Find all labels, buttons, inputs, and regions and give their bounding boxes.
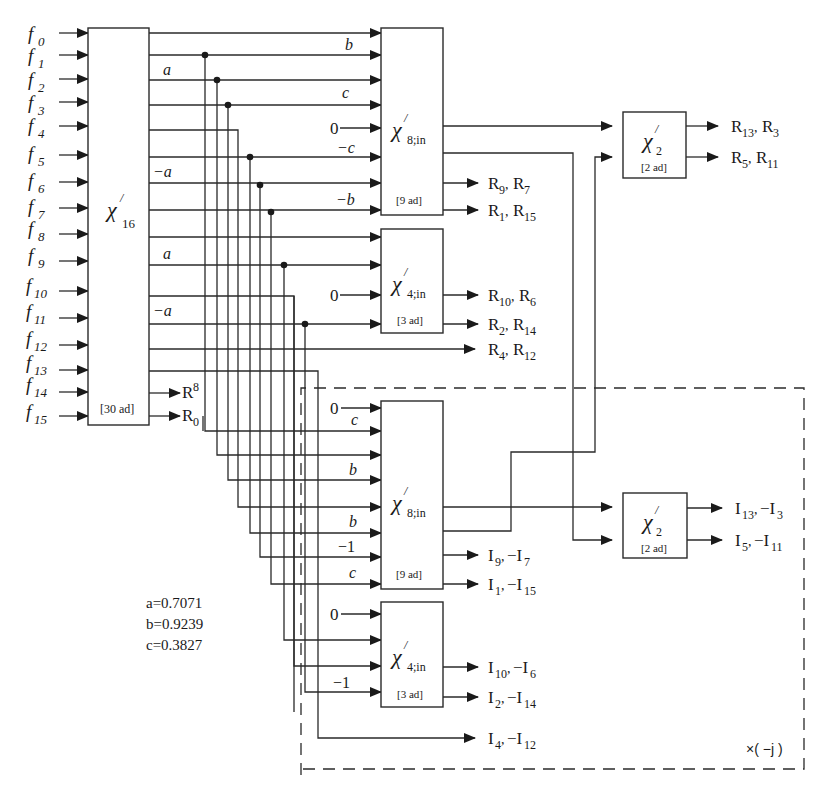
fft-flow-diagram: f0 f1 f2 f3 f4 f5 f6 f7 f8 f9 f10 f11 f1…	[0, 0, 830, 796]
svg-text:,: ,	[507, 661, 511, 676]
svg-text:16: 16	[122, 216, 136, 231]
output-R2-R14: R2, R14	[488, 315, 536, 338]
constant-b: b=0.9239	[146, 616, 203, 632]
svg-text:I: I	[488, 575, 494, 594]
svg-text:f: f	[26, 352, 34, 373]
svg-text:I: I	[488, 688, 494, 707]
svg-text:f: f	[26, 374, 34, 395]
svg-text:χ: χ	[641, 509, 654, 534]
svg-text:3: 3	[37, 103, 45, 118]
block-chi4-real: χ / 4;in [3 ad]	[381, 229, 443, 333]
svg-text:−I: −I	[513, 658, 529, 677]
svg-text:χ: χ	[390, 644, 403, 669]
imaginary-region-border	[301, 388, 804, 775]
svg-text:3: 3	[773, 126, 779, 140]
svg-text:b: b	[345, 36, 353, 53]
svg-text:0: 0	[330, 286, 339, 305]
svg-text:f: f	[28, 23, 36, 44]
svg-text:7: 7	[38, 207, 45, 222]
output-R1-R15: R1, R15	[488, 201, 536, 224]
svg-text:6: 6	[38, 181, 45, 196]
svg-text:f: f	[26, 275, 34, 296]
svg-text:1: 1	[38, 56, 45, 71]
output-I10-negI6: I10, −I6	[488, 658, 536, 681]
constants-legend: a=0.7071 b=0.9239 c=0.3827	[146, 595, 203, 653]
svg-text:c: c	[351, 411, 358, 428]
block-chi16: χ / 16 [30 ad]	[88, 28, 149, 425]
svg-text:f: f	[28, 170, 36, 191]
svg-text:,: ,	[505, 177, 509, 192]
svg-text:8: 8	[193, 380, 199, 394]
svg-text:f: f	[26, 401, 34, 422]
svg-text:I: I	[735, 531, 741, 550]
svg-text:[2 ad]: [2 ad]	[641, 542, 667, 554]
input-f12: f12	[26, 328, 48, 354]
svg-text:10: 10	[499, 295, 511, 309]
svg-text:,: ,	[501, 691, 505, 706]
svg-text:2: 2	[656, 525, 662, 539]
svg-text:13: 13	[742, 508, 754, 522]
svg-text:11: 11	[767, 157, 779, 171]
svg-text:I: I	[488, 729, 494, 748]
svg-text:χ: χ	[105, 197, 118, 222]
output-I9-negI7: I9, −I7	[488, 546, 530, 569]
output-R10-R6: R10, R6	[488, 286, 536, 309]
svg-text:5: 5	[38, 154, 45, 169]
output-R9-R7: R9, R7	[488, 174, 530, 197]
svg-text:7: 7	[524, 555, 530, 569]
block-chi2-real: χ / 2 [2 ad]	[623, 112, 686, 178]
svg-text:12: 12	[34, 339, 48, 354]
output-R5-R11: R5, R11	[731, 148, 779, 171]
svg-text:χ: χ	[390, 271, 403, 296]
input-f5: f5	[28, 143, 45, 169]
svg-text:f: f	[28, 115, 36, 136]
svg-text:,: ,	[505, 318, 509, 333]
svg-text:,: ,	[501, 549, 505, 564]
output-I4-negI12: I4, −I12	[488, 729, 536, 752]
svg-text:−I: −I	[507, 575, 523, 594]
svg-text:10: 10	[34, 286, 48, 301]
input-arrows	[59, 33, 88, 416]
svg-text:−I: −I	[507, 546, 523, 565]
output-I13-negI3: I13, −I3	[735, 499, 783, 522]
junction-dots	[202, 52, 309, 328]
svg-text:f: f	[26, 301, 34, 322]
svg-text:−a: −a	[153, 163, 172, 180]
svg-text:,: ,	[505, 343, 509, 358]
svg-text:9: 9	[38, 256, 45, 271]
block-chi2-imag: χ / 2 [2 ad]	[623, 493, 687, 558]
input-f6: f6	[28, 170, 45, 196]
svg-text:4;in: 4;in	[407, 287, 426, 301]
svg-text:,: ,	[748, 151, 752, 166]
svg-text:[30 ad]: [30 ad]	[100, 402, 134, 416]
svg-text:b: b	[349, 461, 357, 478]
svg-text:4: 4	[38, 126, 45, 141]
svg-text:b: b	[349, 513, 357, 530]
input-f4: f4	[28, 115, 45, 141]
svg-text:15: 15	[524, 584, 536, 598]
svg-text:6: 6	[530, 667, 536, 681]
svg-text:8;in: 8;in	[407, 506, 426, 520]
svg-text:12: 12	[524, 349, 536, 363]
svg-text:I: I	[488, 546, 494, 565]
svg-text:c: c	[349, 564, 356, 581]
svg-text:f: f	[28, 143, 36, 164]
output-R8: R8	[182, 380, 199, 402]
block-chi8-imag: χ / 8;in [9 ad]	[381, 401, 443, 589]
constant-c: c=0.3827	[146, 637, 203, 653]
svg-text:13: 13	[742, 126, 754, 140]
svg-text:−I: −I	[754, 531, 770, 550]
svg-text:2: 2	[38, 80, 45, 95]
svg-text:0: 0	[330, 399, 339, 418]
weight-labels: a −a a −a b c 0 −c −b 0 0 c b b −1 c 0 −…	[153, 36, 358, 691]
input-f11: f11	[26, 301, 46, 327]
constant-a: a=0.7071	[146, 595, 202, 611]
block-chi4-imag: χ / 4;in [3 ad]	[381, 602, 443, 707]
svg-text:,: ,	[505, 204, 509, 219]
svg-text:2: 2	[656, 144, 662, 158]
svg-text:f: f	[28, 196, 36, 217]
input-f10: f10	[26, 275, 48, 301]
svg-text:[9 ad]: [9 ad]	[396, 568, 422, 580]
svg-text:c: c	[342, 84, 349, 101]
svg-text:−b: −b	[336, 191, 355, 208]
